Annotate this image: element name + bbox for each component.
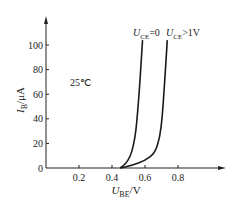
- x-tick-label: 0.8: [172, 172, 185, 183]
- y-tick-label: 0: [38, 163, 43, 174]
- curves: [120, 40, 167, 168]
- y-tick-label: 100: [28, 40, 43, 51]
- curve-uce-gt-1v: [120, 40, 167, 168]
- y-tick-label: 20: [33, 138, 43, 149]
- y-axis-arrow-icon: [44, 16, 48, 24]
- series-label-uce1v: UCE>1V: [166, 27, 201, 41]
- curve-uce-0: [120, 40, 142, 168]
- y-tick-label: 60: [33, 89, 43, 100]
- y-tick-label: 80: [33, 64, 43, 75]
- y-tick-label: 40: [33, 113, 43, 124]
- x-tick-label: 0.4: [106, 172, 119, 183]
- chart: 020406080100 0.20.40.60.8 IB/μA UBE/V 25…: [0, 0, 241, 208]
- y-axis-label: IB/μA: [14, 87, 29, 114]
- x-axis-arrow-icon: [218, 166, 226, 170]
- temperature-annotation: 25℃: [70, 77, 91, 88]
- x-axis-label: UBE/V: [111, 184, 140, 199]
- series-label-uce0: UCE=0: [133, 27, 160, 41]
- axes: [44, 16, 226, 170]
- x-tick-label: 0.6: [139, 172, 152, 183]
- x-tick-label: 0.2: [73, 172, 86, 183]
